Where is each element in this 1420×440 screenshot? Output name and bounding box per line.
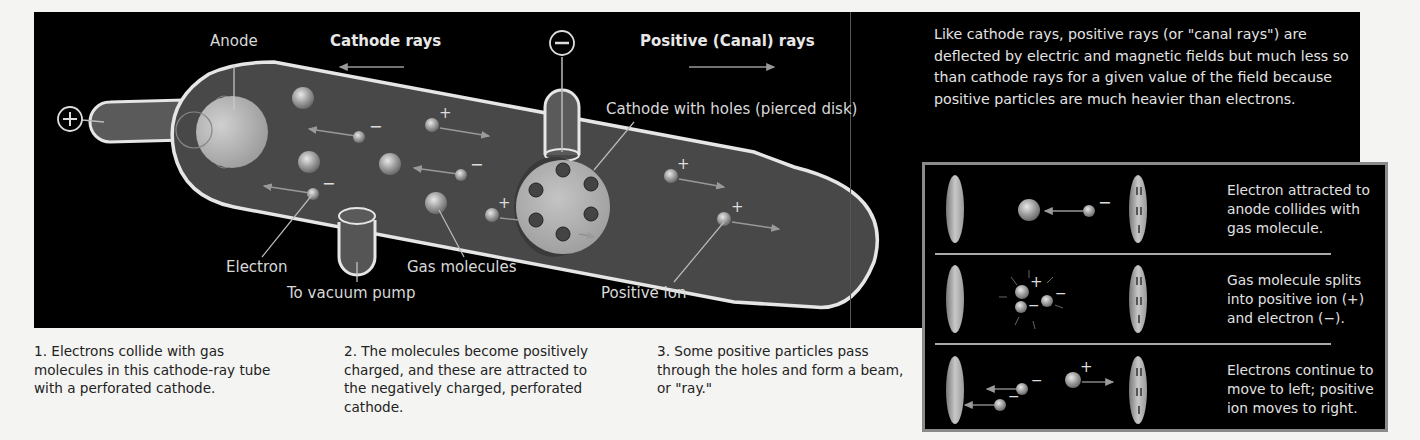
cathode-holes-label: Cathode with holes (pierced disk) (606, 100, 857, 118)
ionization-steps-box: − + − − − (922, 162, 1388, 432)
svg-text:−: − (1031, 372, 1043, 388)
svg-text:−: − (322, 174, 335, 193)
svg-text:+: + (731, 198, 744, 216)
caption-3: 3. Some positive particles pass through … (657, 342, 907, 398)
vacuum-pump-label: To vacuum pump (287, 284, 415, 302)
step-2-text: Gas molecule splits into positive ion (+… (1227, 271, 1387, 328)
svg-text:+: + (1030, 273, 1043, 291)
tube-illustration: − − − + + + + (34, 12, 924, 328)
svg-text:−: − (1098, 193, 1111, 212)
cathode-rays-label: Cathode rays (330, 32, 441, 50)
positive-ion-label: Positive ion (601, 284, 686, 302)
step-1-illustration: − (946, 175, 1147, 243)
step-divider (935, 253, 1331, 255)
svg-text:−: − (1008, 388, 1020, 404)
svg-text:−: − (470, 155, 483, 174)
step-3-text: Electrons continue to move to left; posi… (1227, 361, 1387, 418)
anode-connector (58, 100, 184, 142)
caption-2: 2. The molecules become positively charg… (344, 342, 594, 416)
svg-text:+: + (439, 104, 452, 122)
info-panel: Like cathode rays, positive rays (or "ca… (922, 12, 1360, 162)
svg-text:+: + (1080, 358, 1093, 376)
caption-1: 1. Electrons collide with gas molecules … (34, 342, 294, 398)
cathode-connector (545, 31, 579, 161)
anode-label: Anode (210, 32, 258, 50)
svg-text:+: + (677, 155, 690, 173)
svg-text:−: − (369, 117, 382, 136)
svg-text:+: + (498, 194, 511, 212)
anode-disk (196, 96, 268, 168)
step-divider (935, 343, 1331, 345)
positive-rays-label: Positive (Canal) rays (640, 32, 815, 50)
svg-text:−: − (1055, 285, 1067, 301)
gas-molecules-label: Gas molecules (407, 258, 517, 276)
step-3-illustration: − − + (946, 356, 1147, 424)
vacuum-pump-tube (339, 208, 375, 282)
step-2-illustration: + − − (946, 265, 1147, 333)
cathode-ray-tube-diagram: − − − + + + + (34, 12, 924, 328)
svg-text:−: − (1028, 297, 1040, 313)
step-1-text: Electron attracted to anode collides wit… (1227, 181, 1387, 238)
page-fold-line (850, 12, 851, 328)
electron-label: Electron (226, 258, 288, 276)
info-text: Like cathode rays, positive rays (or "ca… (934, 24, 1354, 110)
